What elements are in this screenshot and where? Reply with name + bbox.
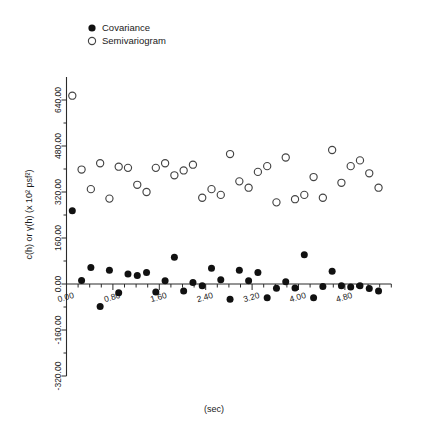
data-point [375, 287, 382, 294]
data-point [87, 186, 94, 193]
data-point [217, 191, 224, 198]
data-point [310, 173, 317, 180]
legend-label: Semivariogram [102, 35, 166, 46]
x-tick-label: 2.40 [196, 290, 215, 304]
data-point [329, 146, 336, 153]
data-point [273, 285, 280, 292]
data-point [97, 303, 104, 310]
data-point [366, 285, 373, 292]
chart-legend: CovarianceSemivariogram [88, 22, 166, 46]
data-point [338, 179, 345, 186]
data-point [375, 184, 382, 191]
data-point [78, 166, 85, 173]
data-point [106, 267, 113, 274]
data-point [180, 167, 187, 174]
data-point [226, 150, 233, 157]
data-point [97, 160, 104, 167]
data-point [236, 178, 243, 185]
data-point [310, 294, 317, 301]
chart-figure: -320.00-160.000.00160.00320.00480.00640.… [0, 0, 429, 433]
data-point [171, 254, 178, 261]
data-point [199, 194, 206, 201]
y-axis-title: c(h) or γ(h) (x 10² psf²) [24, 169, 34, 259]
data-point [245, 184, 252, 191]
data-point [152, 289, 159, 296]
y-tick-label: 160.00 [53, 225, 63, 251]
data-point [301, 251, 308, 258]
tick-labels-group: -320.00-160.000.00160.00320.00480.00640.… [53, 87, 354, 391]
data-points-group [69, 92, 382, 310]
series-semivariogram [69, 92, 382, 206]
y-tick-label: 640.00 [53, 87, 63, 113]
data-point [338, 282, 345, 289]
y-tick-label: -160.00 [53, 315, 63, 344]
data-point [319, 194, 326, 201]
data-point [366, 170, 373, 177]
data-point [115, 163, 122, 170]
data-point [69, 92, 76, 99]
data-point [227, 296, 234, 303]
data-point [115, 289, 122, 296]
data-point [273, 199, 280, 206]
data-point [143, 269, 150, 276]
data-point [347, 163, 354, 170]
data-point [292, 285, 299, 292]
data-point [199, 282, 206, 289]
legend-marker-open-circle-icon [88, 37, 95, 44]
data-point [69, 207, 76, 214]
x-axis-title: (sec) [204, 404, 224, 414]
scatter-plot-canvas: -320.00-160.000.00160.00320.00480.00640.… [0, 0, 429, 433]
data-point [301, 191, 308, 198]
data-point [124, 164, 131, 171]
y-tick-label: 320.00 [53, 179, 63, 205]
data-point [106, 195, 113, 202]
data-point [319, 283, 326, 290]
data-point [124, 270, 131, 277]
data-point [208, 265, 215, 272]
x-tick-label: 3.20 [242, 290, 261, 304]
data-point [134, 181, 141, 188]
data-point [254, 168, 261, 175]
data-point [217, 276, 224, 283]
legend-marker-filled-circle-icon [88, 24, 95, 31]
axes-group [67, 77, 392, 376]
data-point [189, 161, 196, 168]
data-point [180, 287, 187, 294]
data-point [264, 163, 271, 170]
data-point [162, 160, 169, 167]
data-point [245, 277, 252, 284]
y-tick-label: -320.00 [53, 361, 63, 390]
data-point [356, 282, 363, 289]
legend-label: Covariance [102, 22, 150, 33]
data-point [208, 186, 215, 193]
data-point [87, 264, 94, 271]
data-point [236, 267, 243, 274]
y-tick-label: 0.00 [53, 275, 63, 292]
data-point [78, 277, 85, 284]
data-point [134, 272, 141, 279]
data-point [143, 188, 150, 195]
data-point [329, 268, 336, 275]
data-point [189, 279, 196, 286]
data-point [291, 196, 298, 203]
data-point [347, 283, 354, 290]
tick-marks-group [62, 100, 392, 376]
x-tick-label: 4.00 [288, 290, 307, 304]
data-point [264, 294, 271, 301]
data-point [171, 172, 178, 179]
data-point [162, 277, 169, 284]
data-point [254, 269, 261, 276]
data-point [152, 164, 159, 171]
data-point [356, 157, 363, 164]
x-tick-label: 4.80 [335, 290, 354, 304]
data-point [282, 278, 289, 285]
y-tick-label: 480.00 [53, 133, 63, 159]
data-point [282, 154, 289, 161]
